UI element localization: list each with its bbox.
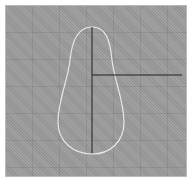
shape-overlay bbox=[0, 0, 192, 184]
teardrop-outline[interactable] bbox=[58, 27, 124, 154]
